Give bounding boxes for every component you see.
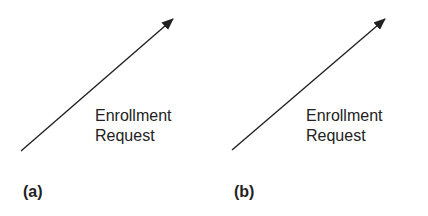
annotation-a-line2: Request bbox=[95, 126, 171, 146]
panel-label-b: (b) bbox=[234, 183, 254, 201]
annotation-b-line2: Request bbox=[306, 126, 382, 146]
annotation-a-line1: Enrollment bbox=[95, 106, 171, 126]
annotation-b: Enrollment Request bbox=[306, 106, 382, 146]
panel-label-a: (a) bbox=[23, 183, 43, 201]
annotation-b-line1: Enrollment bbox=[306, 106, 382, 126]
annotation-a: Enrollment Request bbox=[95, 106, 171, 146]
